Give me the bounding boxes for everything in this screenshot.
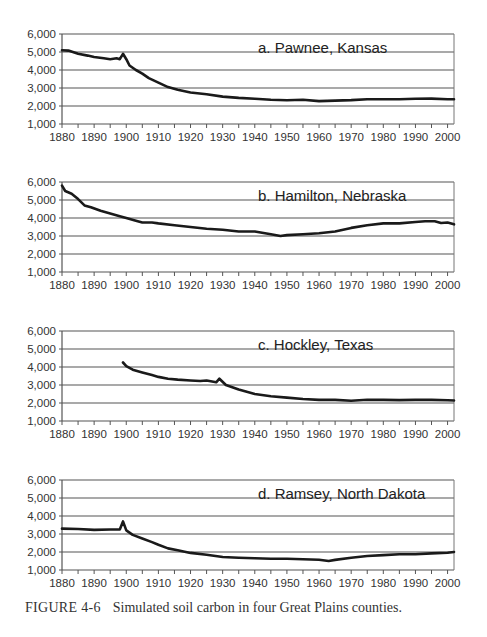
- x-tick-label: 1910: [146, 428, 172, 440]
- x-tick-label: 1990: [403, 279, 429, 291]
- x-tick-label: 2000: [435, 279, 461, 291]
- x-tick-label: 1960: [306, 279, 332, 291]
- x-tick-label: 1990: [403, 428, 429, 440]
- x-tick-label: 1950: [274, 131, 300, 143]
- x-tick-label: 1980: [371, 428, 397, 440]
- x-tick-label: 1940: [242, 131, 268, 143]
- series-line: [62, 521, 454, 561]
- y-tick-label: 2,000: [27, 397, 56, 409]
- x-tick-label: 1880: [49, 428, 75, 440]
- x-tick-label: 1890: [81, 577, 107, 589]
- y-tick-label: 5,000: [27, 343, 56, 355]
- chart-title: b. Hamilton, Nebraska: [258, 187, 407, 204]
- x-tick-label: 1900: [113, 577, 139, 589]
- x-tick-label: 1950: [274, 279, 300, 291]
- x-tick-label: 1880: [49, 279, 75, 291]
- y-tick-label: 1,000: [27, 415, 56, 427]
- x-tick-label: 1940: [242, 428, 268, 440]
- chart-c-hockley-texas: 1,0002,0003,0004,0005,0006,0001880189019…: [0, 317, 487, 457]
- y-tick-label: 1,000: [27, 266, 56, 278]
- x-tick-label: 1940: [242, 577, 268, 589]
- y-tick-label: 6,000: [27, 176, 56, 188]
- x-tick-label: 1980: [371, 131, 397, 143]
- chart-b-hamilton-nebraska: 1,0002,0003,0004,0005,0006,0001880189019…: [0, 168, 487, 308]
- x-tick-label: 1910: [146, 577, 172, 589]
- x-tick-label: 1930: [210, 131, 236, 143]
- figure-label: FIGURE 4-6: [25, 600, 101, 615]
- y-tick-label: 3,000: [27, 528, 56, 540]
- x-tick-label: 2000: [435, 428, 461, 440]
- y-tick-label: 4,000: [27, 212, 56, 224]
- y-tick-label: 5,000: [27, 46, 56, 58]
- x-tick-label: 1890: [81, 279, 107, 291]
- y-tick-label: 5,000: [27, 492, 56, 504]
- x-tick-label: 2000: [435, 577, 461, 589]
- x-tick-label: 1900: [113, 428, 139, 440]
- x-tick-label: 1920: [178, 577, 204, 589]
- chart-d-ramsey-north-dakota: 1,0002,0003,0004,0005,0006,0001880189019…: [0, 466, 487, 606]
- chart-title: a. Pawnee, Kansas: [258, 39, 387, 56]
- y-tick-label: 3,000: [27, 82, 56, 94]
- x-tick-label: 1970: [338, 577, 364, 589]
- x-tick-label: 1900: [113, 279, 139, 291]
- x-tick-label: 2000: [435, 131, 461, 143]
- x-tick-label: 1960: [306, 428, 332, 440]
- x-tick-label: 1890: [81, 428, 107, 440]
- chart-a-pawnee-kansas: 1,0002,0003,0004,0005,0006,0001880189019…: [0, 20, 487, 160]
- x-tick-label: 1880: [49, 131, 75, 143]
- y-tick-label: 1,000: [27, 564, 56, 576]
- y-tick-label: 3,000: [27, 230, 56, 242]
- x-tick-label: 1930: [210, 279, 236, 291]
- x-tick-label: 1890: [81, 131, 107, 143]
- x-tick-label: 1930: [210, 428, 236, 440]
- x-tick-label: 1920: [178, 131, 204, 143]
- x-tick-label: 1980: [371, 279, 397, 291]
- y-tick-label: 1,000: [27, 118, 56, 130]
- x-tick-label: 1910: [146, 131, 172, 143]
- y-tick-label: 2,000: [27, 248, 56, 260]
- x-tick-label: 1900: [113, 131, 139, 143]
- y-tick-label: 6,000: [27, 28, 56, 40]
- x-tick-label: 1970: [338, 279, 364, 291]
- y-tick-label: 4,000: [27, 64, 56, 76]
- y-tick-label: 2,000: [27, 546, 56, 558]
- x-tick-label: 1920: [178, 279, 204, 291]
- x-tick-label: 1970: [338, 428, 364, 440]
- x-tick-label: 1880: [49, 577, 75, 589]
- y-tick-label: 2,000: [27, 100, 56, 112]
- y-tick-label: 5,000: [27, 194, 56, 206]
- x-tick-label: 1980: [371, 577, 397, 589]
- y-tick-label: 6,000: [27, 474, 56, 486]
- y-tick-label: 4,000: [27, 361, 56, 373]
- x-tick-label: 1950: [274, 577, 300, 589]
- x-tick-label: 1960: [306, 131, 332, 143]
- x-tick-label: 1930: [210, 577, 236, 589]
- x-tick-label: 1920: [178, 428, 204, 440]
- x-tick-label: 1990: [403, 577, 429, 589]
- x-tick-label: 1950: [274, 428, 300, 440]
- x-tick-label: 1990: [403, 131, 429, 143]
- y-tick-label: 6,000: [27, 325, 56, 337]
- series-line: [123, 363, 454, 401]
- figure-caption: FIGURE 4-6Simulated soil carbon in four …: [25, 600, 402, 616]
- x-tick-label: 1970: [338, 131, 364, 143]
- y-tick-label: 3,000: [27, 379, 56, 391]
- x-tick-label: 1910: [146, 279, 172, 291]
- series-line: [62, 50, 454, 101]
- figure-caption-text: Simulated soil carbon in four Great Plai…: [113, 600, 402, 615]
- chart-title: d. Ramsey, North Dakota: [258, 485, 426, 502]
- x-tick-label: 1960: [306, 577, 332, 589]
- chart-title: c. Hockley, Texas: [258, 336, 373, 353]
- x-tick-label: 1940: [242, 279, 268, 291]
- y-tick-label: 4,000: [27, 510, 56, 522]
